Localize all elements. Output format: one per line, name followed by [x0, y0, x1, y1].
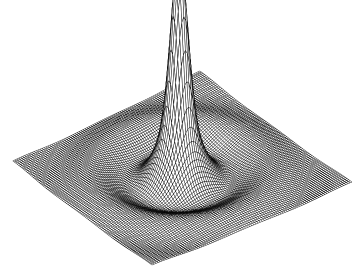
- surface-mesh-plot: [0, 0, 360, 274]
- figure-container: Wireframe mesh surface plot of a radiall…: [0, 0, 360, 274]
